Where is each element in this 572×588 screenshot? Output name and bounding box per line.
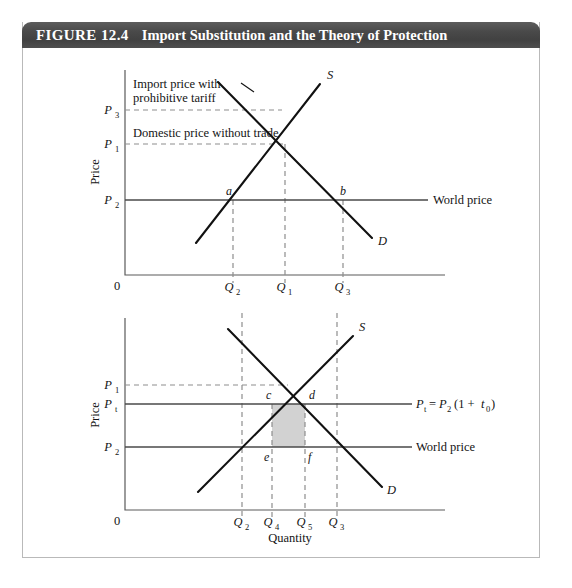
figure-number: FIGURE 12.4 [36, 27, 129, 44]
figure-header-bar: FIGURE 12.4 Import Substitution and the … [22, 22, 540, 48]
figure-box [22, 22, 540, 558]
figure-title: Import Substitution and the Theory of Pr… [142, 27, 448, 44]
